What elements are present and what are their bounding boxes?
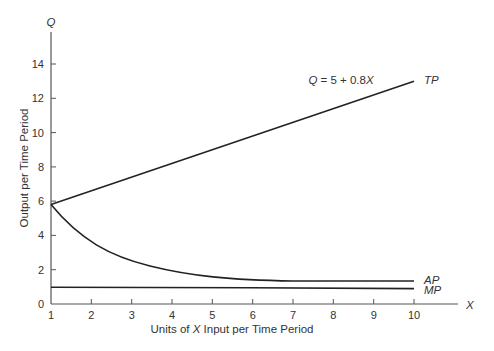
tp-equation-label: Q = 5 + 0.8X — [308, 74, 375, 86]
x-tick-labels: 1 2 3 4 5 6 7 8 9 10 — [48, 309, 420, 321]
tp-label: TP — [424, 74, 439, 86]
y-axis-title: Output per Time Period — [18, 109, 30, 228]
mp-label: MP — [424, 284, 442, 296]
svg-text:6: 6 — [250, 309, 256, 321]
y-ticks — [51, 64, 56, 270]
production-chart: 0 2 4 6 8 10 12 14 1 2 3 4 5 6 7 8 9 10 … — [0, 0, 494, 351]
svg-text:10: 10 — [32, 127, 44, 139]
svg-text:14: 14 — [32, 58, 44, 70]
svg-text:1: 1 — [48, 309, 54, 321]
svg-text:8: 8 — [38, 161, 44, 173]
svg-text:10: 10 — [408, 309, 420, 321]
svg-text:12: 12 — [32, 92, 44, 104]
svg-text:3: 3 — [129, 309, 135, 321]
svg-text:0: 0 — [38, 298, 44, 310]
svg-text:2: 2 — [38, 264, 44, 276]
svg-text:7: 7 — [290, 309, 296, 321]
svg-text:4: 4 — [169, 309, 175, 321]
y-tick-labels: 0 2 4 6 8 10 12 14 — [32, 58, 44, 310]
svg-text:2: 2 — [88, 309, 94, 321]
ap-curve — [51, 205, 414, 281]
x-axis-symbol: X — [465, 299, 475, 311]
x-axis-title: Units of X Input per Time Period — [150, 323, 313, 335]
svg-text:9: 9 — [371, 309, 377, 321]
x-ticks — [91, 299, 414, 304]
svg-text:6: 6 — [38, 195, 44, 207]
tp-curve — [51, 81, 414, 204]
y-axis-symbol: Q — [47, 16, 56, 28]
svg-text:8: 8 — [330, 309, 336, 321]
mp-curve — [51, 287, 414, 288]
svg-text:5: 5 — [209, 309, 215, 321]
svg-text:4: 4 — [38, 229, 44, 241]
